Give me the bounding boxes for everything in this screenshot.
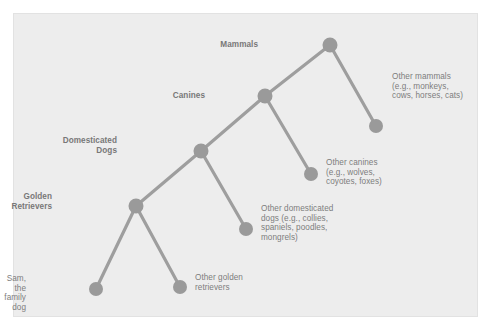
tree-label-domesticated-dogs: Domesticated Dogs [0, 136, 117, 155]
tree-label-sam-family-dog: Sam, the family dog [0, 274, 26, 312]
tree-label-other-domesticated-dogs: Other domesticated dogs (e.g., collies, … [261, 204, 333, 242]
tree-edge-mammals-to-canines [265, 45, 330, 96]
figure-canvas: MammalsOther mammals (e.g., monkeys, cow… [0, 0, 491, 330]
tree-label-mammals: Mammals [0, 40, 258, 50]
tree-node-golden-retrievers[interactable] [129, 199, 144, 214]
tree-node-sam-family-dog[interactable] [89, 282, 103, 296]
tree-label-canines: Canines [0, 91, 205, 101]
tree-node-other-canines[interactable] [304, 167, 318, 181]
tree-node-domesticated-dogs[interactable] [194, 144, 209, 159]
tree-node-other-mammals[interactable] [369, 119, 383, 133]
tree-edge-domesticated-dogs-to-golden-retrievers [136, 151, 201, 206]
tree-edge-golden-retrievers-to-other-golden-retrievers [136, 206, 180, 287]
tree-edge-mammals-to-other-mammals [330, 45, 376, 126]
tree-node-canines[interactable] [258, 89, 273, 104]
tree-label-golden-retrievers: Golden Retrievers [0, 192, 52, 211]
tree-node-mammals[interactable] [323, 38, 338, 53]
tree-edge-domesticated-dogs-to-other-domesticated-dogs [201, 151, 246, 229]
tree-edge-golden-retrievers-to-sam-family-dog [96, 206, 136, 289]
tree-edge-canines-to-other-canines [265, 96, 311, 174]
tree-label-other-mammals: Other mammals (e.g., monkeys, cows, hors… [392, 72, 463, 101]
tree-node-other-domesticated-dogs[interactable] [239, 222, 253, 236]
tree-edge-canines-to-domesticated-dogs [201, 96, 265, 151]
tree-label-other-canines: Other canines (e.g., wolves, coyotes, fo… [326, 158, 382, 187]
tree-node-other-golden-retrievers[interactable] [173, 280, 187, 294]
tree-label-other-golden-retrievers: Other golden retrievers [195, 273, 243, 292]
